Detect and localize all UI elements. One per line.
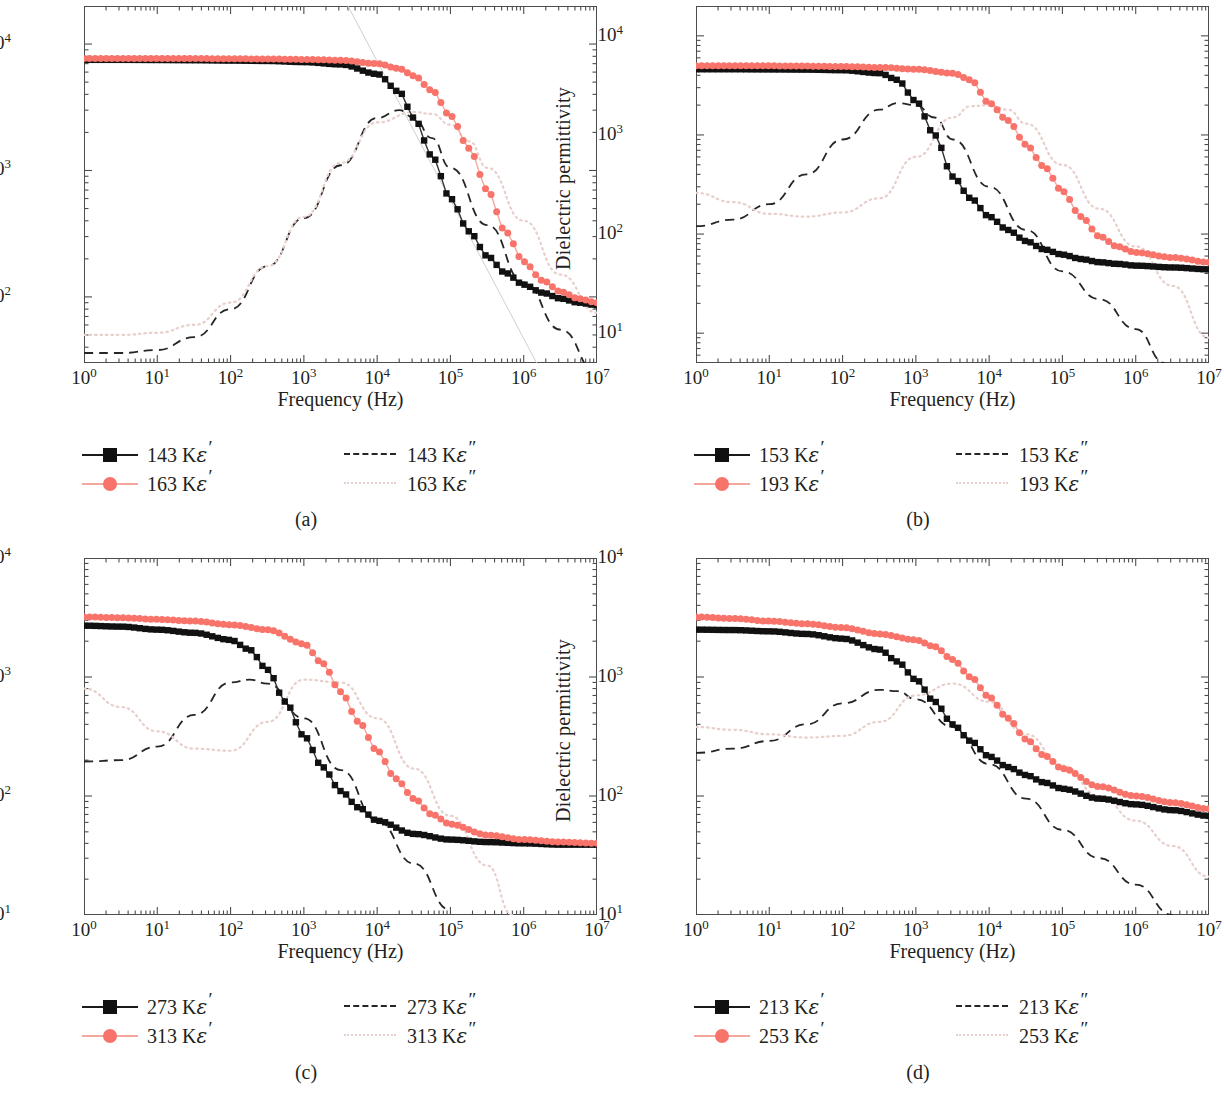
y-axis-label: Dielectric permittivity bbox=[552, 0, 578, 357]
legend-label: 253 Kε′ bbox=[759, 1024, 823, 1048]
y-tick-label: 104 bbox=[0, 547, 11, 566]
legend-label: 143 Kε′ bbox=[147, 443, 211, 467]
x-tick-label: 106 bbox=[1106, 368, 1166, 387]
x-tick-label: 106 bbox=[494, 368, 554, 387]
legend-item: 163 Kε′ bbox=[82, 471, 211, 497]
plot-svg-d bbox=[696, 558, 1209, 915]
square-marker-icon bbox=[82, 997, 138, 1017]
legend-label: 253 Kε″ bbox=[1019, 1024, 1087, 1048]
x-tick-label: 102 bbox=[813, 368, 873, 387]
y-tick-label: 101 bbox=[559, 322, 623, 341]
legend-item: 313 Kε′ bbox=[82, 1023, 211, 1049]
y-tick-label: 104 bbox=[0, 33, 11, 52]
x-tick-label: 104 bbox=[347, 368, 407, 387]
legend-label: 193 Kε″ bbox=[1019, 472, 1087, 496]
plot-area-d bbox=[696, 558, 1209, 915]
x-tick-label: 102 bbox=[201, 368, 261, 387]
plot-area-a bbox=[84, 6, 597, 363]
panel-d: Dielectric permittivity 101102103104 100… bbox=[612, 552, 1224, 1104]
legend-item: 253 Kε″ bbox=[954, 1023, 1087, 1049]
legend-b: 153 Kε′193 Kε′153 Kε″193 Kε″ bbox=[686, 440, 1206, 502]
x-tick-label: 107 bbox=[1179, 920, 1224, 939]
x-tick-label: 101 bbox=[127, 920, 187, 939]
legend-item: 163 Kε″ bbox=[342, 471, 475, 497]
legend-item: 153 Kε′ bbox=[694, 442, 823, 468]
panel-caption: (b) bbox=[612, 508, 1224, 531]
y-tick-label: 103 bbox=[559, 124, 623, 143]
y-tick-label: 101 bbox=[0, 904, 11, 923]
plot-area-c bbox=[84, 558, 597, 915]
legend-label: 153 Kε′ bbox=[759, 443, 823, 467]
panel-c: Dielectric permittivity 101102103104 100… bbox=[0, 552, 612, 1104]
dashed-line-icon bbox=[342, 997, 398, 1017]
legend-label: 193 Kε′ bbox=[759, 472, 823, 496]
panel-caption: (c) bbox=[0, 1061, 612, 1084]
x-tick-label: 104 bbox=[959, 920, 1019, 939]
x-tick-label: 104 bbox=[959, 368, 1019, 387]
y-tick-label: 102 bbox=[0, 286, 11, 305]
legend-item: 313 Kε″ bbox=[342, 1023, 475, 1049]
x-tick-label: 103 bbox=[886, 920, 946, 939]
legend-d: 213 Kε′253 Kε′213 Kε″253 Kε″ bbox=[686, 992, 1206, 1054]
x-tick-label: 103 bbox=[274, 920, 334, 939]
legend-label: 313 Kε′ bbox=[147, 1024, 211, 1048]
plot-svg-c bbox=[84, 558, 597, 915]
x-tick-label: 101 bbox=[127, 368, 187, 387]
dashed-line-icon bbox=[342, 445, 398, 465]
legend-item: 253 Kε′ bbox=[694, 1023, 823, 1049]
legend-item: 143 Kε′ bbox=[82, 442, 211, 468]
x-tick-label: 100 bbox=[54, 920, 114, 939]
legend-item: 273 Kε′ bbox=[82, 994, 211, 1020]
x-axis-label: Frequency (Hz) bbox=[696, 388, 1209, 411]
plot-svg-b bbox=[696, 6, 1209, 363]
circle-marker-icon bbox=[82, 1026, 138, 1046]
legend-item: 213 Kε″ bbox=[954, 994, 1087, 1020]
circle-marker-icon bbox=[694, 1026, 750, 1046]
y-tick-label: 103 bbox=[0, 159, 11, 178]
legend-item: 143 Kε″ bbox=[342, 442, 475, 468]
y-tick-label: 104 bbox=[559, 25, 623, 44]
panel-a: Dielectric permittivity 102103104 100101… bbox=[0, 0, 612, 552]
legend-a: 143 Kε′163 Kε′143 Kε″163 Kε″ bbox=[74, 440, 594, 502]
x-tick-label: 100 bbox=[666, 368, 726, 387]
y-tick-label: 102 bbox=[0, 785, 11, 804]
legend-item: 193 Kε′ bbox=[694, 471, 823, 497]
legend-label: 273 Kε″ bbox=[407, 995, 475, 1019]
y-tick-label: 102 bbox=[559, 223, 623, 242]
legend-label: 213 Kε″ bbox=[1019, 995, 1087, 1019]
x-tick-label: 106 bbox=[1106, 920, 1166, 939]
x-tick-label: 100 bbox=[54, 368, 114, 387]
legend-label: 313 Kε″ bbox=[407, 1024, 475, 1048]
y-tick-label: 103 bbox=[0, 666, 11, 685]
x-tick-label: 101 bbox=[739, 920, 799, 939]
dotted-line-icon bbox=[954, 1026, 1010, 1046]
x-tick-label: 102 bbox=[813, 920, 873, 939]
y-tick-label: 103 bbox=[559, 666, 623, 685]
legend-item: 193 Kε″ bbox=[954, 471, 1087, 497]
x-tick-label: 105 bbox=[1032, 920, 1092, 939]
circle-marker-icon bbox=[82, 474, 138, 494]
y-tick-label: 101 bbox=[559, 904, 623, 923]
x-tick-label: 107 bbox=[1179, 368, 1224, 387]
x-tick-label: 105 bbox=[420, 368, 480, 387]
legend-label: 153 Kε″ bbox=[1019, 443, 1087, 467]
legend-item: 213 Kε′ bbox=[694, 994, 823, 1020]
y-axis-label: Dielectric permittivity bbox=[552, 552, 578, 909]
x-tick-label: 106 bbox=[494, 920, 554, 939]
x-tick-label: 100 bbox=[666, 920, 726, 939]
x-tick-label: 103 bbox=[274, 368, 334, 387]
dotted-line-icon bbox=[954, 474, 1010, 494]
dashed-line-icon bbox=[954, 997, 1010, 1017]
legend-label: 163 Kε′ bbox=[147, 472, 211, 496]
x-axis-label: Frequency (Hz) bbox=[84, 940, 597, 963]
plot-area-b bbox=[696, 6, 1209, 363]
x-tick-label: 105 bbox=[420, 920, 480, 939]
panel-b: Dielectric permittivity 101102103104 100… bbox=[612, 0, 1224, 552]
legend-label: 213 Kε′ bbox=[759, 995, 823, 1019]
y-tick-label: 102 bbox=[559, 785, 623, 804]
x-tick-label: 102 bbox=[201, 920, 261, 939]
circle-marker-icon bbox=[694, 474, 750, 494]
x-tick-label: 105 bbox=[1032, 368, 1092, 387]
x-axis-label: Frequency (Hz) bbox=[84, 388, 597, 411]
dashed-line-icon bbox=[954, 445, 1010, 465]
